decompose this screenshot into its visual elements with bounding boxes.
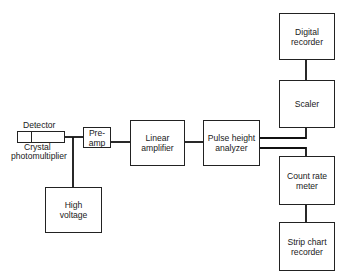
- scaler-line1: Scaler: [295, 99, 319, 109]
- count-rate-line1: Count rate: [287, 171, 327, 181]
- high-voltage-line2: voltage: [60, 210, 88, 220]
- pha-line1: Pulse height: [208, 133, 255, 143]
- preamp-box: Pre-amp: [83, 127, 111, 148]
- linear-amplifier-line1: Linear: [141, 133, 173, 143]
- preamp-line1: Pre-: [89, 128, 106, 138]
- wire-pha-count-rate-meter: [260, 148, 306, 156]
- pulse-height-analyzer-box: Pulse heightanalyzer: [203, 120, 260, 166]
- high-voltage-line1: High: [60, 200, 88, 210]
- high-voltage-box: Highvoltage: [45, 187, 102, 233]
- strip-chart-line2: recorder: [287, 247, 326, 257]
- linear-amplifier-line2: amplifier: [141, 143, 173, 153]
- detector-label: Detector: [23, 120, 55, 130]
- wire-pha-scaler: [260, 128, 306, 138]
- digital-recorder-line1: Digital: [291, 27, 323, 37]
- pha-line2: analyzer: [208, 143, 255, 153]
- strip-chart-recorder-box: Strip chartrecorder: [279, 222, 335, 271]
- photomultiplier-label: photomultiplier: [11, 151, 67, 161]
- scaler-box: Scaler: [279, 80, 335, 128]
- preamp-line2: amp: [89, 138, 106, 148]
- count-rate-meter-box: Count ratemeter: [279, 156, 335, 205]
- digital-recorder-line2: recorder: [291, 37, 323, 47]
- strip-chart-line1: Strip chart: [287, 237, 326, 247]
- linear-amplifier-box: Linearamplifier: [130, 120, 185, 166]
- digital-recorder-box: Digitalrecorder: [279, 13, 335, 60]
- count-rate-line2: meter: [287, 181, 327, 191]
